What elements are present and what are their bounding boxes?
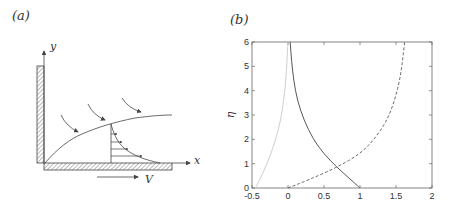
x-tick-label: 0.5 — [318, 191, 331, 201]
data-series — [256, 42, 405, 188]
y-tick-label: 3 — [244, 110, 249, 120]
y-tick-label: 6 — [244, 37, 249, 47]
y-axis-label-eta: η — [224, 111, 237, 118]
y-tick-label: 2 — [244, 134, 249, 144]
panel-b-chart: -0.500.511.520123456 η — [0, 0, 453, 206]
x-tick-label: 0 — [285, 191, 290, 201]
series-solid — [290, 42, 360, 188]
x-tick-label: 1 — [357, 191, 362, 201]
y-tick-label: 4 — [244, 86, 249, 96]
axis-ticks: -0.500.511.520123456 — [244, 37, 435, 201]
y-tick-label: 0 — [244, 183, 249, 193]
y-tick-label: 5 — [244, 61, 249, 71]
series-light — [256, 42, 288, 188]
x-tick-label: 2 — [429, 191, 434, 201]
plot-frame — [252, 42, 432, 188]
series-dashed — [288, 42, 405, 188]
x-tick-label: 1.5 — [390, 191, 403, 201]
y-tick-label: 1 — [244, 159, 249, 169]
